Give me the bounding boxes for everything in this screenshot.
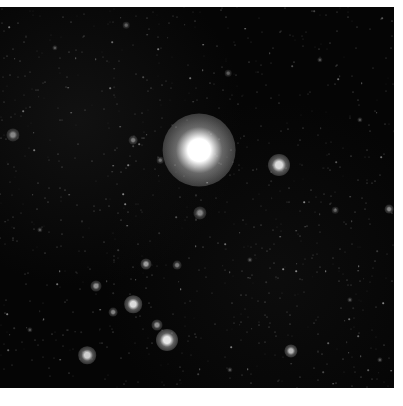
star [78,346,96,364]
noise-speck [247,146,248,147]
noise-speck [135,114,136,115]
noise-speck [95,59,97,61]
noise-speck [87,267,88,268]
noise-speck [61,245,62,246]
noise-speck [113,165,115,167]
noise-speck [358,180,359,181]
noise-speck [236,75,237,76]
noise-speck [256,168,258,170]
noise-speck [130,279,131,280]
noise-speck [277,226,278,227]
noise-speck [185,220,186,221]
star [332,207,339,214]
noise-speck [107,23,108,24]
noise-speck [189,257,190,258]
noise-speck [325,142,326,143]
noise-speck [146,34,148,36]
noise-speck [272,48,273,49]
noise-speck [145,287,146,288]
noise-speck [161,382,162,383]
noise-speck [72,349,73,350]
noise-speck [335,162,337,164]
noise-speck [71,21,72,22]
noise-speck [127,212,128,213]
noise-speck [352,91,353,92]
noise-speck [195,87,196,88]
noise-speck [276,218,277,219]
noise-speck [280,224,281,225]
noise-speck [258,71,259,72]
noise-speck [246,294,247,295]
noise-speck [121,219,122,220]
noise-speck [3,135,4,136]
noise-speck [19,61,20,62]
noise-speck [201,200,202,201]
noise-speck [57,283,59,285]
noise-speck [7,164,8,165]
noise-speck [219,211,220,212]
noise-speck [241,313,242,314]
noise-speck [14,228,15,229]
noise-speck [316,253,317,254]
noise-speck [369,125,370,126]
noise-speck [326,364,327,365]
noise-speck [257,139,258,140]
noise-speck [350,285,351,286]
noise-speck [58,153,59,154]
noise-speck [22,110,24,112]
noise-speck [178,187,179,188]
noise-speck [36,246,37,247]
noise-speck [371,276,372,277]
noise-speck [56,340,57,341]
noise-speck [137,382,138,383]
noise-speck [367,149,368,150]
noise-speck [347,284,348,285]
noise-speck [383,381,384,382]
noise-speck [108,206,109,207]
star [152,320,163,331]
noise-speck [253,227,254,228]
noise-speck [202,69,204,71]
noise-speck [142,256,143,257]
noise-speck [140,315,141,316]
noise-speck [231,303,232,304]
noise-speck [222,8,223,9]
noise-speck [267,316,268,317]
noise-speck [280,236,282,238]
noise-speck [285,267,286,268]
noise-speck [370,130,371,131]
noise-speck [49,231,50,232]
noise-speck [357,270,359,272]
noise-speck [354,326,355,327]
noise-speck [240,137,242,139]
noise-speck [186,217,187,218]
noise-speck [23,348,24,349]
noise-speck [38,183,39,184]
noise-speck [36,90,37,91]
noise-speck [0,325,1,326]
noise-speck [7,313,9,315]
noise-speck [108,175,109,176]
noise-speck [327,342,329,344]
noise-speck [95,180,96,181]
noise-speck [386,58,387,59]
noise-speck [226,17,227,18]
noise-speck [378,372,380,374]
noise-speck [299,139,300,140]
noise-speck [235,45,236,46]
noise-speck [185,317,186,318]
noise-speck [125,167,126,168]
noise-speck [260,224,261,225]
noise-speck [135,204,136,205]
noise-speck [51,35,52,36]
noise-speck [196,337,197,338]
star [129,136,138,145]
noise-speck [256,365,257,366]
noise-speck [38,96,40,98]
noise-speck [147,109,148,110]
noise-speck [11,226,12,227]
noise-speck [207,97,208,98]
noise-speck [90,269,91,270]
noise-speck [196,100,197,101]
noise-speck [344,320,346,322]
